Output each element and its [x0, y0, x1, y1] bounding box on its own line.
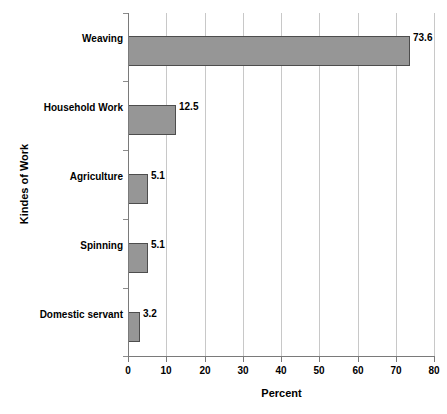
bar-value-spinning: 5.1 — [151, 240, 165, 250]
x-tick-label-70: 70 — [376, 365, 416, 377]
y-tick-label-household-work: Household Work — [5, 102, 123, 113]
bar-chart: 73.6 12.5 5.1 5.1 3.2 Weaving Household … — [0, 0, 447, 414]
y-tick-label-domestic-servant: Domestic servant — [5, 309, 123, 320]
x-tick-60 — [358, 357, 359, 362]
bar-agriculture[interactable] — [128, 174, 148, 204]
y-tick-4 — [123, 288, 128, 289]
x-tick-label-10: 10 — [146, 365, 186, 377]
x-tick-0 — [128, 357, 129, 362]
y-tick-label-weaving: Weaving — [5, 33, 123, 44]
bar-value-weaving: 73.6 — [413, 33, 432, 43]
bar-household-work[interactable] — [128, 105, 176, 135]
y-tick-0 — [123, 13, 128, 14]
x-tick-label-50: 50 — [299, 365, 339, 377]
x-tick-label-60: 60 — [338, 365, 378, 377]
y-tick-3 — [123, 219, 128, 220]
bar-value-household-work: 12.5 — [179, 102, 198, 112]
x-tick-label-20: 20 — [185, 365, 225, 377]
x-axis-title: Percent — [128, 387, 435, 399]
y-axis-line — [128, 13, 129, 357]
bar-value-agriculture: 5.1 — [151, 171, 165, 181]
y-tick-2 — [123, 150, 128, 151]
gridline-80 — [434, 13, 435, 356]
x-tick-40 — [281, 357, 282, 362]
bar-domestic-servant[interactable] — [128, 312, 140, 342]
bar-spinning[interactable] — [128, 243, 148, 273]
x-tick-70 — [396, 357, 397, 362]
x-tick-label-40: 40 — [261, 365, 301, 377]
x-tick-10 — [166, 357, 167, 362]
x-tick-label-80: 80 — [414, 365, 447, 377]
x-tick-30 — [243, 357, 244, 362]
x-tick-20 — [205, 357, 206, 362]
y-axis-title: Kindes of Work — [18, 114, 30, 254]
bar-weaving[interactable] — [128, 36, 410, 66]
x-tick-80 — [434, 357, 435, 362]
plot-area — [128, 13, 434, 356]
y-tick-1 — [123, 81, 128, 82]
x-tick-50 — [319, 357, 320, 362]
bar-value-domestic-servant: 3.2 — [143, 309, 157, 319]
x-tick-label-0: 0 — [108, 365, 148, 377]
x-tick-label-30: 30 — [223, 365, 263, 377]
